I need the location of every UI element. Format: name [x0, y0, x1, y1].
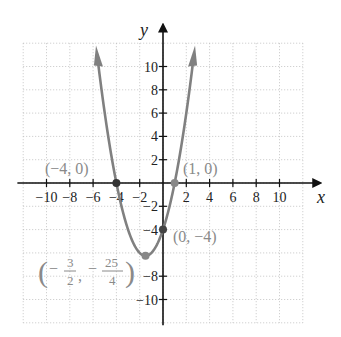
x-tick-label: 2: [183, 190, 190, 205]
vertex-label: ( − 3 2 , − 25 4 ): [38, 255, 135, 289]
point-label-neg4-0: (−4, 0): [45, 160, 89, 178]
x-tick-label: −8: [62, 190, 77, 205]
y-tick-label: −10: [136, 293, 158, 308]
y-axis-label: y: [138, 20, 148, 40]
vertex-minus-1: −: [49, 260, 58, 277]
vertex-num2: 25: [105, 255, 118, 270]
vertex-comma: ,: [78, 267, 82, 284]
x-axis-label: x: [316, 187, 325, 207]
point-label-0-neg4: (0, −4): [173, 228, 217, 246]
x-tick-label: 10: [273, 190, 287, 205]
key-point: [112, 179, 120, 187]
vertex-den1: 2: [67, 273, 74, 288]
x-tick-label: −6: [86, 190, 101, 205]
y-tick-label: −4: [143, 223, 158, 238]
x-tick-label: 8: [253, 190, 260, 205]
curve-arrow-left: [94, 46, 103, 67]
x-tick-label: 4: [206, 190, 213, 205]
vertex-den2: 4: [109, 273, 116, 288]
point-label-1-0: (1, 0): [183, 160, 218, 178]
chart-canvas: −10−8−6−4−2246810−10−8−4−2246810 x y (−4…: [0, 0, 341, 337]
key-point: [142, 252, 150, 260]
y-tick-label: 2: [151, 153, 158, 168]
y-tick-label: 8: [151, 83, 158, 98]
y-tick-label: 10: [144, 60, 158, 75]
x-tick-label: −10: [36, 190, 58, 205]
curve-arrow-right: [188, 46, 197, 67]
vertex-minus-2: −: [88, 260, 97, 277]
key-point: [171, 179, 179, 187]
x-tick-label: 6: [229, 190, 236, 205]
vertex-close-paren: ): [125, 255, 135, 289]
key-point: [159, 226, 167, 234]
vertex-open-paren: (: [38, 255, 48, 289]
vertex-num1: 3: [67, 255, 74, 270]
y-tick-label: 4: [151, 129, 158, 144]
y-tick-label: −2: [143, 199, 158, 214]
y-tick-label: 6: [151, 106, 158, 121]
y-tick-label: −8: [143, 269, 158, 284]
